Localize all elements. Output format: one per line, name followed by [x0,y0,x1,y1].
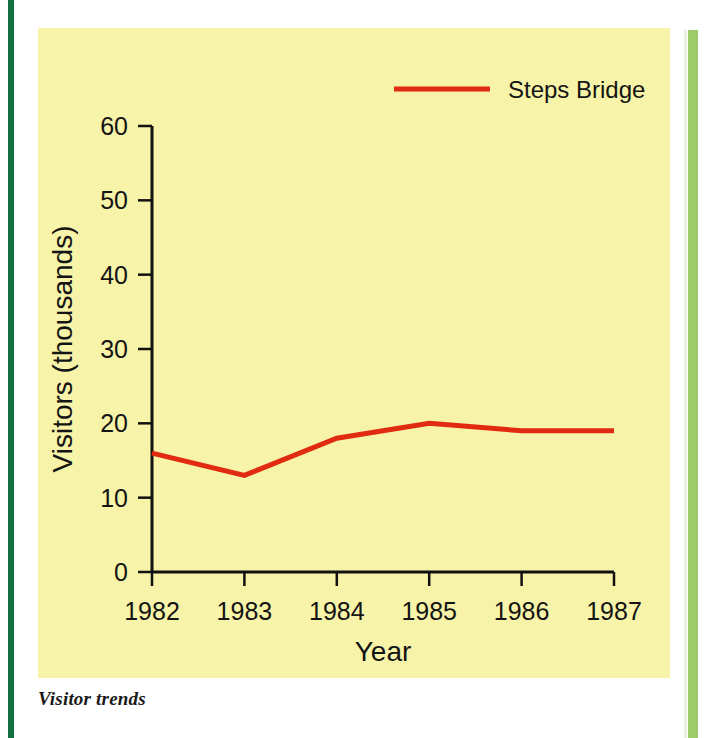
y-tick-label: 60 [100,112,128,140]
x-tick-label: 1987 [586,597,642,625]
y-tick-label: 0 [114,558,128,586]
x-axis-ticks [152,572,614,586]
legend-label-steps-bridge: Steps Bridge [508,76,645,103]
chart-figure: Steps Bridge 0102030405060 Visitors (tho… [38,28,670,678]
series-line-steps-bridge [152,423,614,475]
figure-caption: Visitor trends [38,688,146,710]
page-right-rule [688,30,698,738]
x-tick-label: 1982 [124,597,180,625]
x-axis: 198219831984198519861987 Year [124,572,642,667]
y-tick-label: 50 [100,186,128,214]
y-tick-label: 30 [100,335,128,363]
chart-legend: Steps Bridge [394,76,645,103]
y-axis-title: Visitors (thousands) [47,226,78,473]
line-chart: Steps Bridge 0102030405060 Visitors (tho… [38,28,670,678]
y-axis-ticks [138,126,152,572]
page-right-rule-edge [684,30,687,738]
chart-series-group [152,423,614,475]
x-tick-label: 1985 [401,597,457,625]
x-axis-tick-labels: 198219831984198519861987 [124,597,642,625]
x-axis-title: Year [355,636,412,667]
y-tick-label: 20 [100,409,128,437]
x-tick-label: 1986 [494,597,550,625]
x-tick-label: 1984 [309,597,365,625]
y-axis: 0102030405060 Visitors (thousands) [47,112,152,586]
x-tick-label: 1983 [217,597,273,625]
page-left-rule [8,0,14,738]
y-tick-label: 40 [100,261,128,289]
y-tick-label: 10 [100,484,128,512]
y-axis-tick-labels: 0102030405060 [100,112,128,586]
